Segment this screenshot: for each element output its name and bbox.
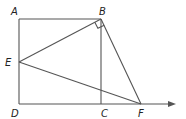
square-abcd xyxy=(19,19,101,104)
label-c: C xyxy=(101,108,108,119)
label-e: E xyxy=(5,57,12,68)
label-d: D xyxy=(11,108,19,119)
segment-ef xyxy=(19,62,141,104)
label-a: A xyxy=(10,6,18,17)
geometry-diagram: A B C D E F xyxy=(0,0,186,119)
segment-bf xyxy=(101,19,141,104)
segment-be xyxy=(19,19,101,62)
ray-arrowhead-icon xyxy=(168,101,176,107)
label-f: F xyxy=(138,108,144,119)
label-b: B xyxy=(99,6,106,17)
